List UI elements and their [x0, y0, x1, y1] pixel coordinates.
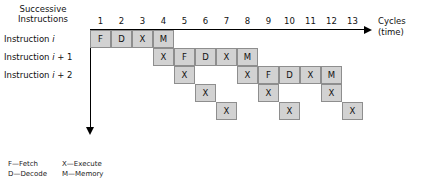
pipeline-cell-r1-c6-d: D [195, 48, 216, 66]
legend-entry-m: M—Memory [62, 170, 104, 179]
cycle-tick-5: 5 [174, 16, 195, 26]
pipeline-cell-r1-c7-x: X [216, 48, 237, 66]
cycle-tick-1: 1 [90, 16, 111, 26]
cycle-tick-11: 11 [300, 16, 321, 26]
legend-entry-x: X—Execute [62, 160, 102, 169]
instruction-row-label-0: Instruction i [4, 34, 55, 44]
pipeline-cell-r0-c3-x: X [132, 30, 153, 48]
cycle-tick-3: 3 [132, 16, 153, 26]
pipeline-cell-r1-c5-f: F [174, 48, 195, 66]
pipeline-cell-r2-c10-d: D [279, 66, 300, 84]
cycles-axis-arrowhead [364, 26, 372, 34]
cycle-tick-2: 2 [111, 16, 132, 26]
pipeline-cell-r4-c7-x: X [216, 102, 237, 120]
pipeline-cell-r1-c4-x: X [153, 48, 174, 66]
cycle-tick-7: 7 [216, 16, 237, 26]
pipeline-cell-r0-c4-m: M [153, 30, 174, 48]
pipeline-cell-r3-c9-x: X [258, 84, 279, 102]
pipeline-cell-r4-c10-x: X [279, 102, 300, 120]
cycle-tick-4: 4 [153, 16, 174, 26]
cycle-tick-6: 6 [195, 16, 216, 26]
instructions-axis-arrowhead [86, 127, 94, 135]
pipeline-cell-r1-c8-m: M [237, 48, 258, 66]
pipeline-cell-r0-c1-f: F [90, 30, 111, 48]
legend-entry-d: D—Decode [8, 170, 47, 179]
pipeline-cell-r3-c6-x: X [195, 84, 216, 102]
pipeline-diagram: Successive Instructions 1234567891011121… [0, 0, 424, 193]
cycles-axis-caption-line1: Cycles [378, 16, 406, 27]
legend-entry-f: F—Fetch [8, 160, 38, 169]
cycle-tick-13: 13 [342, 16, 363, 26]
pipeline-cell-r4-c13-x: X [342, 102, 363, 120]
cycle-tick-10: 10 [279, 16, 300, 26]
cycle-tick-9: 9 [258, 16, 279, 26]
successive-instructions-heading-line2: Instructions [4, 14, 82, 24]
successive-instructions-heading-line1: Successive [4, 4, 82, 14]
pipeline-cell-r2-c11-x: X [300, 66, 321, 84]
pipeline-cell-r2-c5-x: X [174, 66, 195, 84]
pipeline-cell-r2-c12-m: M [321, 66, 342, 84]
cycles-axis-caption-line2: (time) [378, 27, 404, 38]
instruction-row-label-2: Instruction i + 2 [4, 70, 73, 80]
pipeline-cell-r3-c12-x: X [321, 84, 342, 102]
pipeline-cell-r0-c2-d: D [111, 30, 132, 48]
instruction-row-label-1: Instruction i + 1 [4, 52, 73, 62]
pipeline-cell-r2-c9-f: F [258, 66, 279, 84]
cycle-tick-8: 8 [237, 16, 258, 26]
pipeline-cell-r2-c8-x: X [237, 66, 258, 84]
cycle-tick-12: 12 [321, 16, 342, 26]
